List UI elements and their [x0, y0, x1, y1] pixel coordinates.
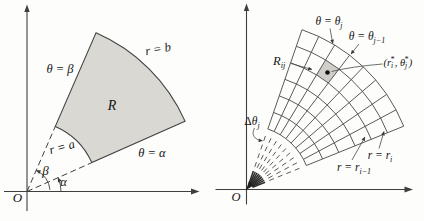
- right-y-axis-arrow-icon: [244, 4, 249, 12]
- dashed-line-theta-beta: [27, 126, 55, 191]
- grid-ray-dashed: [267, 157, 295, 176]
- leader-r-i-minus-1: [352, 137, 365, 160]
- label-r-i: r = ri: [368, 149, 393, 164]
- label-R-ij: Rij: [272, 54, 286, 70]
- sample-point-dot: [325, 70, 330, 75]
- grid-ray-dashed: [262, 143, 283, 170]
- label-sample-point: (ri*, θj*): [384, 55, 413, 70]
- leader-r-i: [379, 132, 384, 149]
- figure-canvas: θ = β r = b R r = a θ = α β α O θ = θj: [0, 0, 424, 221]
- grid-arc: [268, 129, 307, 166]
- leader-sample-point: [332, 64, 383, 72]
- label-beta: β: [41, 163, 49, 178]
- label-region-R: R: [107, 98, 117, 113]
- right-x-axis-arrow-icon: [405, 186, 414, 192]
- label-left-origin: O: [13, 190, 23, 205]
- left-x-axis-arrow-icon: [191, 188, 200, 194]
- label-r-b: r = b: [144, 40, 172, 58]
- grid-ray-dashed: [265, 152, 291, 174]
- grid-ray-dashed: [255, 135, 266, 167]
- label-r-a: r = a: [48, 137, 77, 157]
- grid-ray-dashed: [259, 140, 277, 169]
- leader-theta-j: [330, 29, 333, 44]
- left-diagram: θ = β r = b R r = a θ = α β α O: [4, 5, 200, 212]
- label-theta-j: θ = θj: [315, 15, 343, 30]
- label-alpha: α: [60, 175, 67, 189]
- leader-delta-theta: [253, 128, 262, 141]
- figure-polar-regions: θ = β r = b R r = a θ = α β α O θ = θj: [0, 0, 424, 221]
- grid-ray: [268, 30, 302, 129]
- left-y-axis-arrow-icon: [24, 5, 29, 13]
- grid-ray: [274, 36, 319, 131]
- grid-ray-dashed: [264, 147, 287, 172]
- leader-theta-j-minus-1: [351, 44, 359, 54]
- label-r-i-minus-1: r = ri−1: [337, 161, 371, 176]
- label-theta-alpha: θ = α: [138, 146, 166, 160]
- label-theta-j-minus-1: θ = θj−1: [349, 30, 385, 45]
- right-diagram: θ = θj θ = θj−1 Rij (ri*, θj*) Δθj r = r…: [216, 4, 414, 205]
- label-theta-beta: θ = β: [46, 62, 74, 76]
- label-right-origin: O: [231, 190, 240, 204]
- leader-R-ij: [291, 64, 312, 70]
